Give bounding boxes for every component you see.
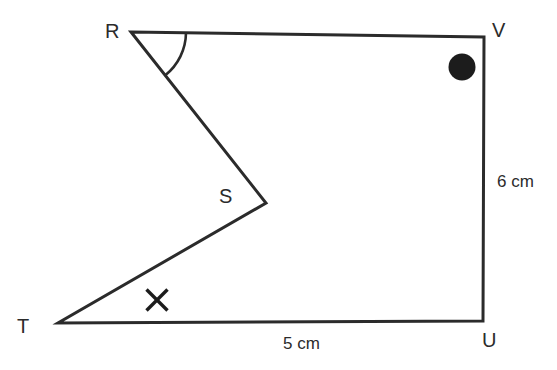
cross-tick-icon — [147, 290, 168, 311]
vertex-label-u: U — [482, 329, 496, 351]
angle-arc-icon — [165, 33, 186, 75]
vertex-label-s: S — [219, 185, 232, 207]
vertex-label-t: T — [17, 315, 29, 337]
figure-svg: R V U T S 6 cm 5 cm — [0, 0, 557, 370]
vertex-label-v: V — [492, 19, 506, 41]
filled-circle-icon — [449, 54, 476, 81]
side-length-label-tu: 5 cm — [283, 334, 320, 353]
geometry-figure-canvas: R V U T S 6 cm 5 cm — [0, 0, 557, 370]
vertex-label-r: R — [105, 20, 119, 42]
side-length-label-vu: 6 cm — [497, 172, 534, 191]
polygon-rvuts-outline — [58, 32, 484, 323]
